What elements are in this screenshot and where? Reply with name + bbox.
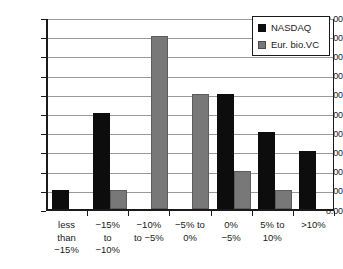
legend-entry-eur-bio-vc: Eur. bio.VC	[258, 36, 319, 54]
bar-eur-bio-vc	[151, 36, 168, 209]
legend-label: NASDAQ	[271, 23, 311, 33]
legend: NASDAQ Eur. bio.VC	[252, 16, 330, 56]
bar-chart-figure: 0.001.002.003.004.005.006.007.008.009.00…	[0, 0, 343, 269]
bar-nasdaq	[299, 151, 316, 209]
x-tick-mark	[334, 211, 335, 216]
legend-entry-nasdaq: NASDAQ	[258, 19, 311, 37]
bar-nasdaq	[258, 132, 275, 209]
x-tick-label: 0% −5%	[211, 219, 252, 244]
black-square-icon	[258, 24, 266, 32]
y-tick-mark	[41, 211, 46, 212]
bar-nasdaq	[93, 113, 110, 209]
bar-eur-bio-vc	[110, 190, 127, 209]
bar-eur-bio-vc	[234, 171, 251, 209]
category-group	[89, 19, 130, 209]
bar-eur-bio-vc	[275, 190, 292, 209]
legend-label: Eur. bio.VC	[271, 40, 319, 50]
x-tick-mark	[169, 211, 170, 216]
x-tick-mark	[128, 211, 129, 216]
x-tick-label: less than −15%	[46, 219, 87, 257]
category-group	[48, 19, 89, 209]
bar-eur-bio-vc	[192, 94, 209, 209]
x-tick-label: −15% to −10%	[87, 219, 128, 257]
category-group	[171, 19, 212, 209]
x-tick-label: 5% to 10%	[252, 219, 293, 244]
x-tick-mark	[293, 211, 294, 216]
category-group	[130, 19, 171, 209]
gray-square-icon	[258, 41, 266, 49]
bar-nasdaq	[52, 190, 69, 209]
x-tick-label: −10% to −5%	[128, 219, 169, 244]
x-tick-mark	[87, 211, 88, 216]
x-tick-mark	[211, 211, 212, 216]
x-tick-label: −5% to 0%	[169, 219, 210, 244]
category-group	[213, 19, 254, 209]
x-tick-label: >10%	[293, 219, 334, 232]
bar-nasdaq	[217, 94, 234, 209]
x-tick-mark	[252, 211, 253, 216]
